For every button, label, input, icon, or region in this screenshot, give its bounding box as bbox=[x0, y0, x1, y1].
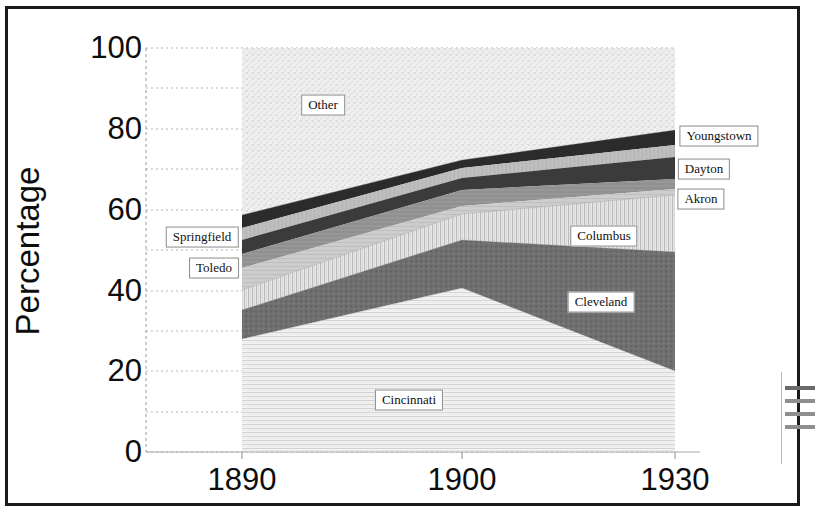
callout-akron: Akron bbox=[677, 189, 724, 210]
callout-cincinnati: Cincinnati bbox=[375, 390, 443, 411]
callout-other: Other bbox=[301, 95, 345, 116]
callout-springfield: Springfield bbox=[166, 227, 239, 248]
legend-swatch-4 bbox=[785, 425, 815, 429]
callout-cleveland: Cleveland bbox=[568, 292, 635, 313]
callout-toledo: Toledo bbox=[189, 258, 239, 279]
callout-youngstown: Youngstown bbox=[679, 126, 758, 147]
callout-dayton: Dayton bbox=[678, 159, 730, 180]
legend-swatch-3 bbox=[785, 412, 815, 416]
legend-swatch-2 bbox=[785, 399, 815, 403]
legend-swatch-1 bbox=[785, 386, 815, 390]
legend-fragment bbox=[781, 372, 817, 464]
callout-columbus: Columbus bbox=[570, 226, 637, 247]
x-tick-marks bbox=[242, 452, 675, 459]
